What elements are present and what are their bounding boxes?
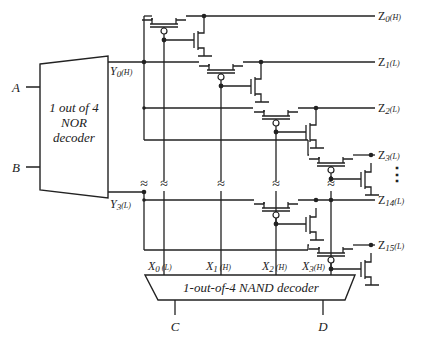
z15-label: Z15(L) <box>378 238 404 253</box>
input-d-label: D <box>317 319 328 334</box>
z2-label: Z2(L) <box>378 101 400 116</box>
z1-label: Z1(L) <box>378 55 400 70</box>
z14-label: Z14(L) <box>378 193 404 208</box>
input-c-label: C <box>171 319 180 334</box>
nor-label-line3: decoder <box>53 130 96 145</box>
x3-label: X3(H) <box>301 259 325 274</box>
z0-label: Z0(H) <box>378 9 401 24</box>
x1-label: X1(H) <box>205 259 231 274</box>
nor-label-line1: 1 out of 4 <box>49 100 99 115</box>
break-symbol-y: ≈ <box>140 176 148 191</box>
ellipsis-indicator: ⋮ <box>388 164 406 184</box>
y3-label: Y3(L) <box>110 197 131 212</box>
nor-label-line2: NOR <box>60 115 87 130</box>
input-a-label: A <box>11 80 20 95</box>
y0-label: Y0(H) <box>110 64 133 79</box>
x0-label: X0(L) <box>147 259 172 274</box>
x2-label: X2(H) <box>261 259 287 274</box>
nand-decoder-label: 1-out-of-4 NAND decoder <box>183 280 320 295</box>
z3-label: Z3(L) <box>378 148 400 163</box>
decoder-circuit-diagram: 1 out of 4 NOR decoder A B Y0(H) Y3(L) ≈… <box>0 0 447 344</box>
input-b-label: B <box>12 160 20 175</box>
